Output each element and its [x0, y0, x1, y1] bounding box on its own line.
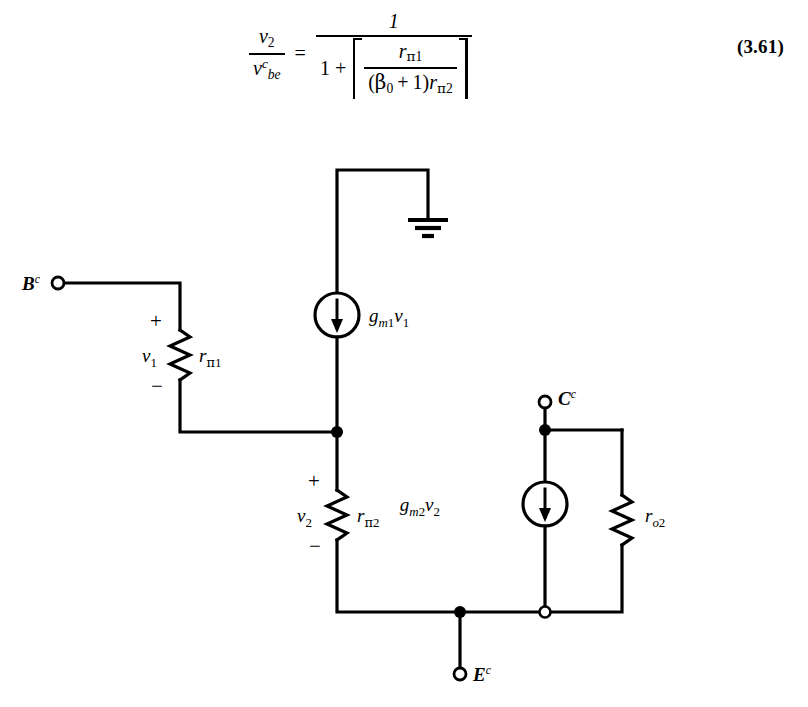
terminal-label-collector: Cc	[558, 388, 577, 409]
terminal-circle-emitter	[454, 668, 466, 680]
wire-top-to-ground	[337, 170, 428, 295]
resistor-rpi1-zigzag	[170, 330, 190, 380]
inner-fraction: rπ1 (β0+1)rπ2	[364, 38, 457, 99]
component-label-rpi2: rπ2	[357, 505, 379, 530]
component-label-ro2: ro2	[645, 505, 665, 530]
equation-expression: v2 vcbe = 1 1 + rπ1 (β0+1)rπ2	[246, 8, 475, 100]
junction-dot-base-node	[331, 426, 343, 438]
equation-block: v2 vcbe = 1 1 + rπ1 (β0+1)rπ2	[0, 0, 808, 150]
main-numerator: 1	[385, 8, 403, 35]
denominator-plus: +	[335, 56, 346, 81]
equals-sign: =	[295, 42, 306, 65]
resistor-rpi2-zigzag	[327, 490, 347, 540]
wire-ro2-to-bottom-rail	[545, 545, 622, 612]
terminal-label-emitter: Ec	[472, 664, 492, 685]
wire-base-to-rpi1	[64, 283, 180, 330]
component-label-gm2v2: gm2v2	[400, 494, 440, 519]
right-bracket	[459, 38, 468, 99]
junction-dot-emitter-node	[454, 606, 466, 618]
ground-symbol	[408, 220, 448, 236]
resistor-ro2-zigzag	[612, 495, 632, 545]
equation-number: (3.61)	[737, 36, 784, 58]
terminal-label-base: Bc	[21, 273, 41, 294]
wire-rpi1-to-node	[180, 380, 337, 432]
terminal-circle-base	[52, 277, 64, 289]
node-voltage-label-v2: v2	[297, 505, 312, 530]
junction-dot-collector-node	[539, 424, 551, 436]
main-fraction: 1 1 + rπ1 (β0+1)rπ2	[316, 8, 472, 100]
main-denominator: 1 + rπ1 (β0+1)rπ2	[316, 37, 472, 100]
ratio-fraction: v2 vcbe	[249, 23, 285, 84]
polarity-minus-v2: −	[309, 534, 321, 558]
terminal-circle-collector	[539, 396, 551, 408]
ratio-denominator: vcbe	[249, 55, 285, 85]
left-bracket	[353, 38, 362, 99]
component-label-gm1v1: gm1v1	[369, 305, 409, 330]
bracketed-group: rπ1 (β0+1)rπ2	[353, 38, 468, 99]
circuit-diagram: Bc Cc Ec + v1 − rπ1 gm1v1 + v2 − rπ2 gm2…	[0, 150, 808, 707]
node-voltage-label-v1: v1	[142, 345, 157, 370]
inner-numerator: rπ1	[395, 38, 427, 68]
denominator-one: 1	[320, 56, 330, 81]
polarity-plus-v1: +	[150, 309, 162, 333]
polarity-plus-v2: +	[308, 469, 320, 493]
component-label-rpi1: rπ1	[199, 345, 221, 370]
ratio-numerator: v2	[255, 23, 279, 53]
open-junction-source2-bottom	[540, 607, 551, 618]
polarity-minus-v1: −	[151, 374, 163, 398]
wire-rpi2-to-bottom-rail	[337, 540, 545, 612]
inner-denominator: (β0+1)rπ2	[364, 69, 457, 99]
